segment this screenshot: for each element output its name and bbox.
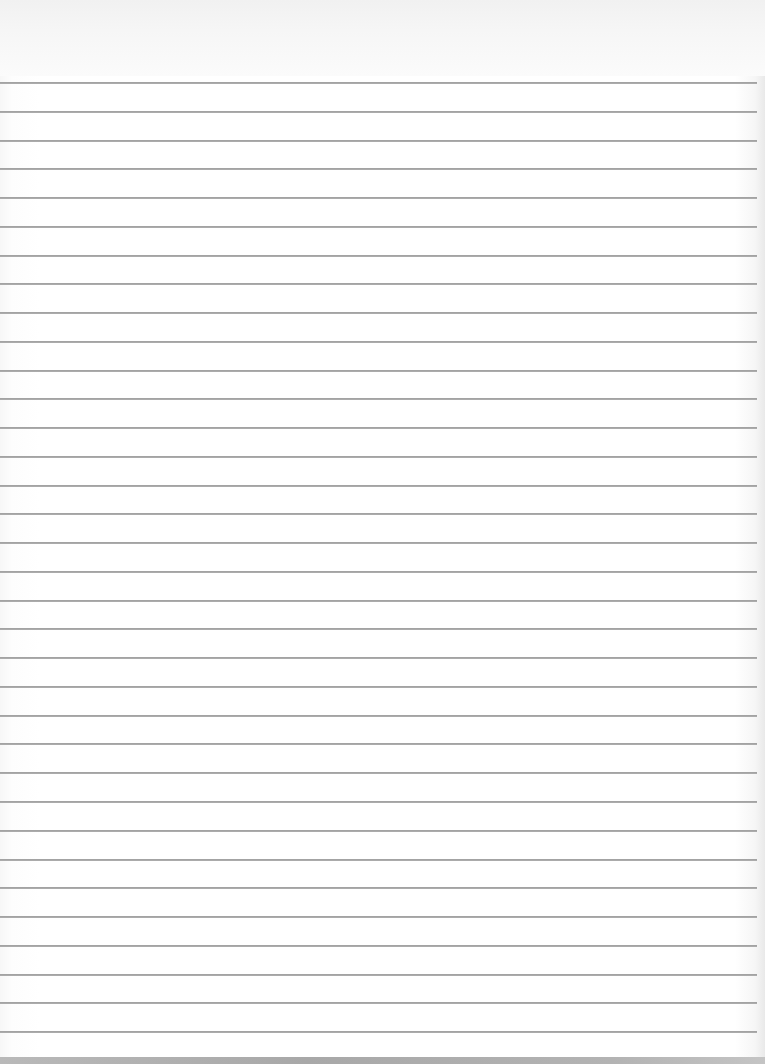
ruled-line	[0, 168, 757, 170]
ruled-line	[0, 571, 757, 573]
ruled-line	[0, 513, 757, 515]
ruled-line	[0, 312, 757, 314]
ruled-line	[0, 226, 757, 228]
ruled-line	[0, 600, 757, 602]
ruled-line	[0, 1031, 757, 1033]
ruled-line	[0, 657, 757, 659]
ruled-line	[0, 370, 757, 372]
ruled-line	[0, 830, 757, 832]
ruled-line	[0, 456, 757, 458]
ruled-line	[0, 974, 757, 976]
ruled-line	[0, 140, 757, 142]
ruled-line	[0, 801, 757, 803]
lined-paper-page	[0, 0, 765, 1064]
ruled-line	[0, 542, 757, 544]
ruled-line	[0, 427, 757, 429]
ruled-line	[0, 255, 757, 257]
top-margin-band	[0, 0, 765, 76]
ruled-line	[0, 197, 757, 199]
ruled-line	[0, 743, 757, 745]
ruled-line	[0, 341, 757, 343]
ruled-line	[0, 715, 757, 717]
ruled-line	[0, 859, 757, 861]
ruled-line	[0, 628, 757, 630]
ruled-line	[0, 82, 757, 84]
ruled-line	[0, 772, 757, 774]
page-text	[0, 0, 1, 1]
ruled-line	[0, 111, 757, 113]
ruled-line	[0, 1002, 757, 1004]
ruled-line	[0, 945, 757, 947]
ruled-line	[0, 485, 757, 487]
ruled-line	[0, 887, 757, 889]
ruled-line	[0, 916, 757, 918]
ruled-line	[0, 398, 757, 400]
bottom-edge-shadow	[0, 1057, 765, 1064]
ruled-line	[0, 283, 757, 285]
ruled-line	[0, 686, 757, 688]
